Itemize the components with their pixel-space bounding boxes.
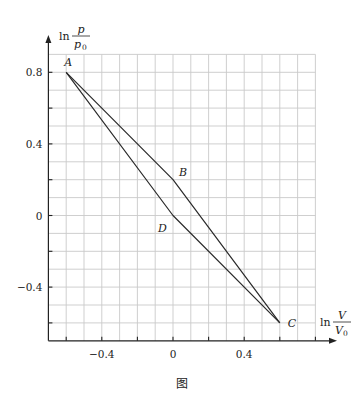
y-tick-label: 0.8 <box>26 66 43 78</box>
y-axis-label-prefix: ln <box>59 30 70 43</box>
y-axis-arrow-icon <box>45 35 51 43</box>
y-tick-label: 0.4 <box>26 138 43 150</box>
x-axis-label-numerator: V <box>338 309 347 322</box>
x-tick-label: 0 <box>170 348 177 360</box>
x-tick-label: 0.4 <box>236 348 253 360</box>
tick-marks <box>48 72 315 341</box>
y-tick-label: −0.4 <box>17 281 43 293</box>
point-label-a: A <box>63 56 72 69</box>
y-axis-label: lnpp0 <box>59 23 90 52</box>
tick-labels: −0.400.40.80.40−0.4 <box>17 66 253 360</box>
y-axis-label-denominator: p <box>74 38 81 51</box>
grid-lines <box>48 54 315 340</box>
y-axis-label-denominator-subscript: 0 <box>82 43 87 52</box>
y-tick-label: 0 <box>36 210 43 222</box>
x-tick-label: −0.4 <box>89 348 115 360</box>
x-axis-label: lnVV0 <box>320 309 351 338</box>
x-axis-label-denominator-subscript: 0 <box>343 329 348 338</box>
x-axis-arrow-icon <box>329 338 337 344</box>
point-label-c: C <box>288 317 297 330</box>
point-label-b: B <box>178 166 187 179</box>
x-axis-label-prefix: ln <box>320 316 331 329</box>
y-axis-label-numerator: p <box>77 23 84 36</box>
figure-caption: 图 <box>0 374 363 391</box>
point-label-d: D <box>157 222 167 235</box>
pv-log-chart: −0.400.40.80.40−0.4 ABCD lnpp0 lnVV0 <box>0 0 363 405</box>
